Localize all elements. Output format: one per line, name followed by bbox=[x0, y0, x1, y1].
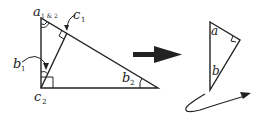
transform-arrow bbox=[133, 46, 182, 63]
label-small-b: b bbox=[212, 64, 220, 78]
label-c1: c bbox=[73, 7, 81, 22]
pointer-b1 bbox=[22, 56, 46, 64]
label-b1-sub: 1 bbox=[21, 65, 25, 73]
similar-triangles-diagram: a 1 & 2 c 1 b 1 c 2 b 2 a b bbox=[0, 0, 262, 118]
label-small-a: a bbox=[211, 24, 218, 38]
large-right-triangle bbox=[22, 15, 158, 88]
angle-arc-a-outer bbox=[41, 22, 47, 25]
arrowhead-c1 bbox=[64, 25, 69, 31]
arrowhead-b1 bbox=[43, 63, 49, 70]
label-c1-sub: 1 bbox=[81, 16, 85, 24]
rotation-arrow bbox=[186, 92, 251, 112]
label-a: a bbox=[33, 4, 41, 19]
label-c2: c bbox=[34, 89, 42, 104]
label-a-sub: 1 & 2 bbox=[41, 12, 58, 19]
altitude-line bbox=[41, 33, 67, 88]
label-c2-sub: 2 bbox=[42, 98, 46, 106]
right-angle-mark-c2 bbox=[41, 77, 53, 88]
angle-arc-b2 bbox=[140, 78, 142, 88]
angle-arc-b1 bbox=[41, 71, 48, 74]
label-b2-sub: 2 bbox=[130, 79, 134, 87]
